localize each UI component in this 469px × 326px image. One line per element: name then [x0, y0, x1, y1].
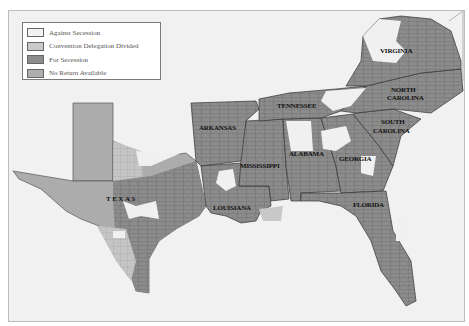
legend-label: No Return Available — [49, 69, 106, 77]
for-swatch-icon — [27, 55, 44, 64]
legend: Against Secession Convention Delegation … — [22, 22, 161, 80]
legend-item-for: For Secession — [27, 53, 160, 67]
state-label-virginia: VIRGINIA — [380, 48, 412, 56]
state-label-arkansas: ARKANSAS — [199, 125, 236, 133]
against-swatch-icon — [27, 28, 44, 37]
legend-item-no-return: No Return Available — [27, 67, 160, 81]
legend-label: For Secession — [49, 56, 88, 64]
legend-item-divided: Convention Delegation Divided — [27, 40, 160, 54]
legend-label: Against Secession — [49, 29, 100, 37]
southern-states — [191, 16, 463, 306]
divided-swatch-icon — [27, 42, 44, 51]
no-return-swatch-icon — [27, 69, 44, 78]
state-label-north-carolina-2: CAROLINA — [387, 95, 424, 103]
legend-item-against: Against Secession — [27, 26, 160, 40]
state-label-texas: TEXAS — [106, 196, 137, 204]
state-label-alabama: ALABAMA — [289, 151, 324, 159]
state-label-georgia: GEORGIA — [339, 156, 371, 164]
state-label-south-carolina-1: SOUTH — [381, 119, 405, 127]
state-label-south-carolina-2: CAROLINA — [373, 128, 410, 136]
state-label-tennessee: TENNESSEE — [277, 103, 316, 111]
legend-label: Convention Delegation Divided — [49, 42, 138, 50]
state-label-florida: FLORIDA — [353, 202, 384, 210]
map-frame: Against Secession Convention Delegation … — [8, 10, 465, 322]
state-label-louisiana: LOUISIANA — [213, 205, 251, 213]
state-label-mississippi: MISSISSIPPI — [240, 163, 279, 171]
